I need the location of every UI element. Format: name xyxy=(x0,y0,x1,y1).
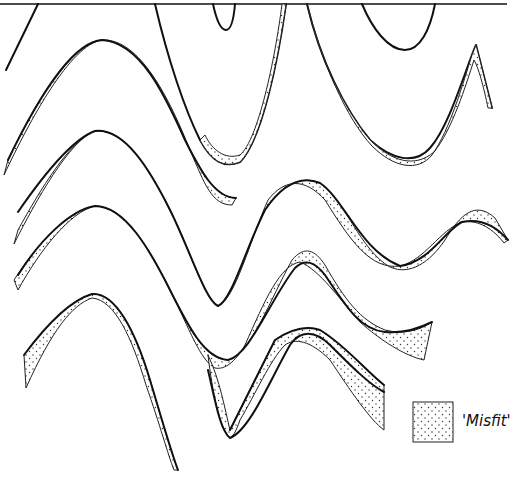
curve-set-3 xyxy=(14,206,432,368)
legend-misfit-label: 'Misfit' xyxy=(462,412,511,430)
legend-misfit-swatch xyxy=(413,402,453,442)
curves-canvas xyxy=(0,0,517,492)
curve-set-4 xyxy=(24,294,384,470)
curve-set-2 xyxy=(14,131,508,306)
curve-set-1 xyxy=(4,4,492,205)
misfit-diagram: 'Misfit' xyxy=(0,0,517,492)
